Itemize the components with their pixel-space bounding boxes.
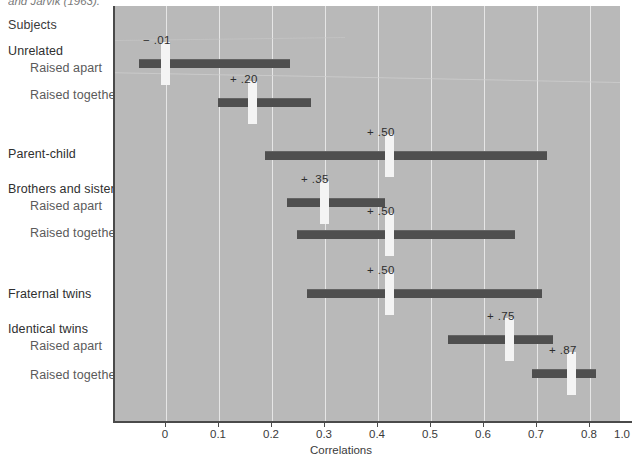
x-tick-label-4: 0.4 <box>369 428 385 440</box>
range-bar-fraternal-twins <box>307 289 542 298</box>
x-tick-3 <box>324 421 325 427</box>
plot-inner: − .01 + .20 + .50 + .35 + .50 + .50 <box>115 6 620 421</box>
y-axis-title: Subjects <box>8 18 57 32</box>
gridline-0-8 <box>590 6 591 421</box>
x-axis-title-wrap: Correlations <box>0 444 632 456</box>
x-tick-label-7: 0.7 <box>528 428 544 440</box>
median-marker-parent-child <box>385 134 394 177</box>
x-axis-line <box>113 421 632 423</box>
x-tick-8 <box>589 421 590 427</box>
x-tick-label-5: 0.5 <box>422 428 438 440</box>
x-tick-5 <box>430 421 431 427</box>
gridline-0-5 <box>431 6 432 421</box>
x-tick-label-0: 0 <box>162 428 168 440</box>
plot-area: − .01 + .20 + .50 + .35 + .50 + .50 <box>113 6 620 421</box>
row-label-identical-raised-apart: Raised apart <box>30 339 102 353</box>
x-tick-7 <box>536 421 537 427</box>
median-marker-unrelated-apart <box>161 42 170 85</box>
group-label-identical-twins: Identical twins <box>8 322 88 336</box>
row-label-brothers-raised-apart: Raised apart <box>30 199 102 213</box>
range-bar-unrelated-together <box>218 98 311 107</box>
median-marker-unrelated-together <box>248 81 257 124</box>
value-label-unrelated-together: + .20 <box>230 73 258 85</box>
x-tick-0 <box>165 421 166 427</box>
value-label-brothers-together: + .50 <box>367 205 395 217</box>
median-marker-identical-apart <box>505 318 514 361</box>
x-tick-1 <box>218 421 219 427</box>
group-label-unrelated: Unrelated <box>8 44 63 58</box>
x-tick-label-8: 0.8 <box>581 428 597 440</box>
row-label-fraternal-twins: Fraternal twins <box>8 287 91 301</box>
value-label-identical-apart: + .75 <box>487 310 515 322</box>
row-label-brothers-raised-together: Raised together <box>30 226 120 240</box>
median-marker-brothers-apart <box>320 181 329 224</box>
x-axis-title: Correlations <box>310 444 372 456</box>
gridline-0-7 <box>537 6 538 421</box>
range-bar-parent-child <box>265 151 547 160</box>
scan-artifact-line <box>115 72 620 83</box>
x-tick-label-6: 0.6 <box>475 428 491 440</box>
range-bar-identical-apart <box>448 335 553 344</box>
row-label-identical-raised-together: Raised together <box>30 368 120 382</box>
x-tick-label-1: 0.1 <box>210 428 226 440</box>
x-tick-label-2: 0.2 <box>263 428 279 440</box>
correlation-range-chart: and Jarvik (1963). Subjects Unrelated Ra… <box>0 0 632 456</box>
range-bar-brothers-together <box>297 230 515 239</box>
x-tick-2 <box>271 421 272 427</box>
row-label-parent-child: Parent-child <box>8 147 76 161</box>
group-label-brothers-and-sisters: Brothers and sisters <box>8 182 121 196</box>
x-tick-6 <box>483 421 484 427</box>
median-marker-brothers-together <box>385 213 394 256</box>
x-tick-label-9: 1.0 <box>614 428 630 440</box>
gridline-0-1 <box>219 6 220 421</box>
gridline-0-2 <box>272 6 273 421</box>
median-marker-fraternal-twins <box>385 272 394 315</box>
x-tick-label-3: 0.3 <box>316 428 332 440</box>
value-label-parent-child: + .50 <box>367 126 395 138</box>
value-label-fraternal-twins: + .50 <box>367 264 395 276</box>
gridline-0-6 <box>484 6 485 421</box>
range-bar-identical-together <box>532 369 596 378</box>
row-label-unrelated-raised-apart: Raised apart <box>30 61 102 75</box>
value-label-unrelated-apart: − .01 <box>143 34 171 46</box>
row-label-unrelated-raised-together: Raised together <box>30 88 120 102</box>
x-tick-4 <box>377 421 378 427</box>
median-marker-identical-together <box>567 352 576 395</box>
value-label-identical-together: + .87 <box>549 344 577 356</box>
value-label-brothers-apart: + .35 <box>301 173 329 185</box>
